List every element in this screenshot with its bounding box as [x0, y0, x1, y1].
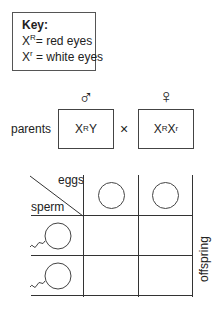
male-symbol-icon: ♂ [76, 87, 96, 107]
sperm-cell-icon [30, 222, 75, 254]
grid-line [31, 215, 193, 216]
grid-line [31, 255, 193, 256]
grid-line [192, 175, 193, 297]
key-title: Key: [22, 18, 95, 33]
parents-label: parents [11, 122, 51, 136]
egg-cell-icon [152, 182, 179, 209]
eggs-label: eggs [58, 173, 84, 187]
male-genotype-box: XRY [58, 109, 114, 149]
cross-symbol: × [120, 121, 128, 137]
grid-line [83, 175, 84, 297]
grid-line [138, 175, 139, 297]
key-red-eyes: XR= red eyes [22, 33, 95, 49]
sperm-label: sperm [31, 200, 64, 214]
sperm-cell-icon [30, 262, 75, 294]
key-box: Key: XR= red eyes Xr = white eyes [12, 12, 96, 71]
female-symbol-icon: ♀ [156, 86, 176, 106]
female-genotype-box: XRXr [138, 109, 194, 149]
egg-cell-icon [98, 182, 125, 209]
grid-line [31, 295, 193, 296]
key-white-eyes: Xr = white eyes [22, 49, 95, 65]
offspring-label: offspring [197, 236, 211, 282]
